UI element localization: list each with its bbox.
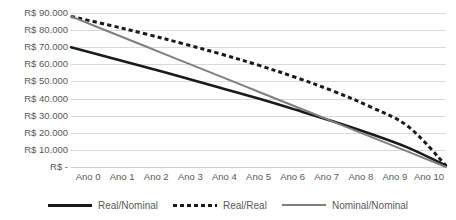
legend-item[interactable]: Real/Real [173, 200, 267, 211]
x-axis-tick-label: Ano 10 [412, 170, 446, 184]
legend-item[interactable]: Real/Nominal [48, 200, 158, 211]
y-axis-tick-label: R$ 50.000 [0, 76, 68, 86]
y-axis-tick-label: R$ 20.000 [0, 128, 68, 138]
y-axis-tick-label: R$ 70.000 [0, 42, 68, 52]
x-axis-tick-label: Ano 5 [241, 170, 275, 184]
y-axis-tick-label: R$ 60.000 [0, 59, 68, 69]
y-axis: R$ 90.000R$ 80.000R$ 70.000R$ 60.000R$ 5… [0, 0, 68, 180]
series-layer [71, 13, 446, 167]
x-axis-tick-label: Ano 6 [276, 170, 310, 184]
x-axis-tick-label: Ano 7 [310, 170, 344, 184]
x-axis-tick-label: Ano 9 [378, 170, 412, 184]
y-axis-tick-label: R$ 10.000 [0, 145, 68, 155]
x-axis: Ano 0Ano 1Ano 2Ano 3Ano 4Ano 5Ano 6Ano 7… [71, 170, 446, 184]
series-line [71, 16, 446, 167]
legend-item-label: Nominal/Nominal [332, 200, 408, 211]
plot-area [71, 13, 446, 167]
x-axis-tick-label: Ano 4 [207, 170, 241, 184]
x-axis-tick-label: Ano 2 [139, 170, 173, 184]
legend-item-label: Real/Nominal [98, 200, 158, 211]
line-solid-thick-icon [48, 200, 92, 210]
legend-item[interactable]: Nominal/Nominal [282, 200, 408, 211]
y-axis-tick-label: R$ - [0, 162, 68, 172]
chart-legend: Real/NominalReal/RealNominal/Nominal [0, 196, 456, 214]
line-solid-thin-icon [282, 200, 326, 210]
line-dotted-icon [173, 200, 217, 210]
x-axis-tick-label: Ano 8 [344, 170, 378, 184]
y-axis-tick-label: R$ 90.000 [0, 8, 68, 18]
legend-item-label: Real/Real [223, 200, 267, 211]
x-axis-tick-label: Ano 1 [105, 170, 139, 184]
x-axis-tick-label: Ano 3 [173, 170, 207, 184]
line-chart: R$ 90.000R$ 80.000R$ 70.000R$ 60.000R$ 5… [0, 0, 456, 220]
y-axis-tick-label: R$ 40.000 [0, 94, 68, 104]
y-axis-tick-label: R$ 80.000 [0, 25, 68, 35]
gridline [71, 167, 446, 168]
x-axis-tick-label: Ano 0 [71, 170, 105, 184]
y-axis-tick-label: R$ 30.000 [0, 111, 68, 121]
